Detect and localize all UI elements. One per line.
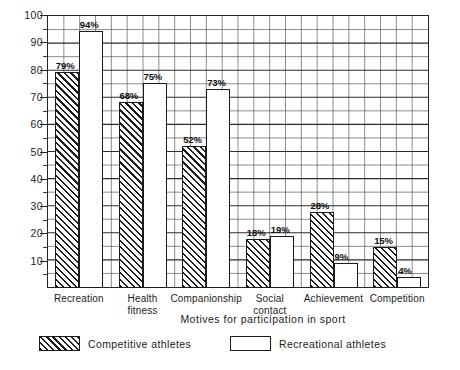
- y-axis-tick-mark: [40, 15, 47, 16]
- hatched-swatch-icon: [39, 336, 80, 351]
- bar-comp-0: [55, 72, 79, 288]
- chart-legend: Competitive athletes Recreational athlet…: [39, 336, 429, 356]
- bar-value-label: 73%: [207, 78, 226, 88]
- legend-label-competitive: Competitive athletes: [88, 338, 191, 350]
- y-axis-tick-mark: [40, 261, 47, 262]
- bar-comp-5: [373, 247, 397, 288]
- bar-value-label: 75%: [144, 72, 163, 82]
- bar-value-label: 4%: [398, 266, 412, 276]
- y-axis-tick-label: 40: [15, 174, 43, 185]
- bar-comp-4: [310, 212, 334, 288]
- bar-rec-3: [270, 236, 294, 288]
- bar-value-label: 52%: [183, 135, 202, 145]
- open-swatch-icon: [230, 336, 271, 351]
- x-axis-title: Motives for participation in sport: [0, 313, 460, 325]
- legend-item-competitive: Competitive athletes: [39, 336, 191, 351]
- bar-rec-5: [397, 277, 421, 288]
- bar-rec-4: [334, 263, 358, 288]
- y-axis-tick-label: 100: [15, 10, 43, 21]
- bar-value-label: 79%: [56, 61, 75, 71]
- y-axis-tick-mark: [40, 152, 47, 153]
- y-axis-tick-mark: [40, 233, 47, 234]
- y-axis-tick-mark: [40, 97, 47, 98]
- legend-item-recreational: Recreational athletes: [230, 336, 386, 351]
- y-axis-tick-mark: [40, 70, 47, 71]
- bar-value-label: 68%: [120, 91, 139, 101]
- bar-value-label: 15%: [374, 236, 393, 246]
- bar-value-label: 9%: [335, 252, 349, 262]
- bar-value-label: 19%: [271, 225, 290, 235]
- x-axis-category-label: Competition: [352, 293, 442, 305]
- bar-chart: 102030405060708090100 79%94%68%75%52%73%…: [0, 0, 460, 370]
- y-axis-tick-mark: [40, 124, 47, 125]
- bar-rec-1: [143, 83, 167, 288]
- y-axis-tick-label: 30: [15, 201, 43, 212]
- bar-rec-0: [79, 31, 103, 288]
- bar-series-layer: 79%94%68%75%52%73%18%19%28%9%15%4%: [47, 15, 429, 288]
- y-axis-tick-label: 80: [15, 65, 43, 76]
- bar-value-label: 28%: [311, 201, 330, 211]
- bar-comp-2: [182, 146, 206, 288]
- y-axis-tick-label: 20: [15, 228, 43, 239]
- bar-comp-3: [246, 239, 270, 288]
- y-axis-tick-label: 70: [15, 92, 43, 103]
- y-axis-tick-label: 90: [15, 37, 43, 48]
- y-axis-tick-mark: [40, 206, 47, 207]
- y-axis-tick-mark: [40, 42, 47, 43]
- x-axis-title-text: Motives for participation in sport: [114, 313, 345, 325]
- bar-value-label: 94%: [80, 20, 99, 30]
- y-axis-tick-label: 50: [15, 147, 43, 158]
- y-axis-tick-label: 60: [15, 119, 43, 130]
- bar-rec-2: [206, 89, 230, 288]
- bar-comp-1: [119, 102, 143, 288]
- bar-value-label: 18%: [247, 228, 266, 238]
- y-axis-tick-mark: [40, 179, 47, 180]
- y-axis-tick-label: 10: [15, 256, 43, 267]
- legend-label-recreational: Recreational athletes: [279, 338, 386, 350]
